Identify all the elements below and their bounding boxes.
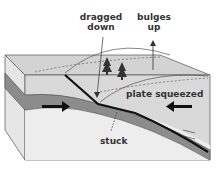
label-plate-squeezed: plate squeezed (126, 89, 203, 99)
label-bulges: bulges (136, 12, 172, 22)
bulges-up-arrowhead (150, 40, 156, 46)
label-bulges-up: bulges up (136, 12, 172, 32)
label-down: down (78, 22, 124, 32)
label-stuck: stuck (100, 136, 127, 146)
label-dragged: dragged (78, 12, 124, 22)
label-up: up (136, 22, 172, 32)
label-dragged-down: dragged down (78, 12, 124, 32)
